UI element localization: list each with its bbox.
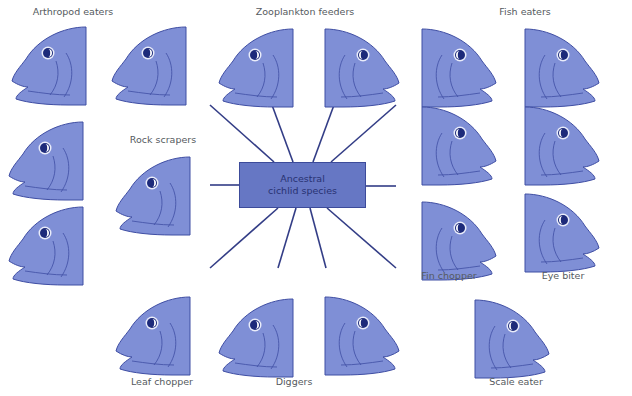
fish-arthropod-1 xyxy=(12,27,86,105)
fish-arthropod-3 xyxy=(9,122,83,200)
fish-eater-2 xyxy=(525,29,599,107)
label-zooplankton-feeders: Zooplankton feeders xyxy=(256,6,355,17)
fish-eater-3 xyxy=(422,107,496,185)
line-lower-mid-left xyxy=(278,208,296,268)
line-upper-mid-left xyxy=(272,105,293,162)
label-rock-scrapers: Rock scrapers xyxy=(130,134,196,145)
label-scale-eater: Scale eater xyxy=(489,376,543,387)
center-line-1: Ancestral xyxy=(280,173,325,185)
fish-arthropod-2 xyxy=(112,27,186,105)
line-lower-left xyxy=(210,208,278,268)
label-fish-eaters: Fish eaters xyxy=(499,6,551,17)
label-leaf-chopper: Leaf chopper xyxy=(131,376,193,387)
fish-eater-1 xyxy=(422,29,496,107)
label-diggers: Diggers xyxy=(276,376,313,387)
fish-digger-2 xyxy=(325,297,399,375)
label-arthropod-eaters: Arthropod eaters xyxy=(33,6,114,17)
line-upper-left xyxy=(210,105,274,162)
fish-fin-chopper xyxy=(422,202,496,280)
line-lower-right xyxy=(327,208,396,268)
fish-zooplankton-2 xyxy=(325,29,399,107)
fish-rock-scraper xyxy=(116,157,190,235)
label-fin-chopper: Fin chopper xyxy=(421,270,476,281)
fish-eye-biter xyxy=(525,194,599,272)
fish-eater-4 xyxy=(525,107,599,185)
fish-zooplankton-1 xyxy=(219,29,293,107)
ancestral-species-box: Ancestral cichlid species xyxy=(239,162,366,208)
line-upper-mid-right xyxy=(313,105,334,162)
fish-leaf-chopper xyxy=(116,297,190,375)
fish-digger-1 xyxy=(219,299,293,377)
label-eye-biter: Eye biter xyxy=(542,270,585,281)
fish-scale-eater xyxy=(475,300,549,378)
line-lower-mid-right xyxy=(310,208,326,268)
fish-arthropod-4 xyxy=(9,207,83,285)
line-upper-right xyxy=(331,105,396,162)
center-line-2: cichlid species xyxy=(268,185,337,197)
